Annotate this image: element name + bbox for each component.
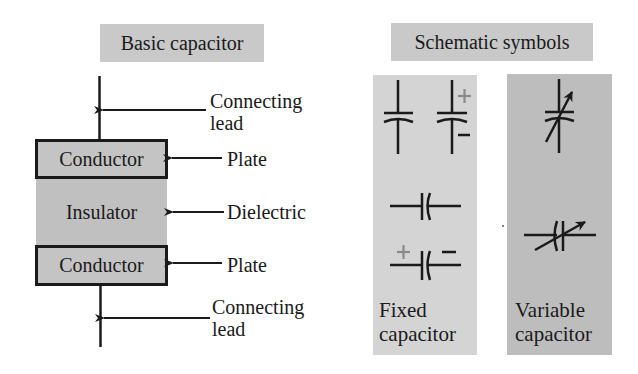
diagram-lines xyxy=(0,0,638,374)
fixed-capacitor-horizontal-icon xyxy=(390,193,461,220)
fixed-capacitor-vertical-icon xyxy=(384,80,413,154)
stray-dot xyxy=(502,225,504,227)
plus-sign-icon xyxy=(458,89,471,103)
variable-capacitor-horizontal-icon xyxy=(524,221,596,251)
variable-capacitor-vertical-icon xyxy=(545,79,574,153)
plus-sign-icon xyxy=(397,245,410,259)
fixed-polarized-capacitor-horizontal-icon xyxy=(390,251,461,280)
